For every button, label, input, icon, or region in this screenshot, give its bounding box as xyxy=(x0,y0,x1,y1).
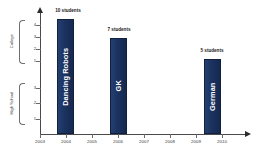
axis-group-brace-high-school xyxy=(19,83,25,125)
y-axis-line xyxy=(40,12,41,135)
y-tick-label-high-school-1: 1 xyxy=(27,117,36,121)
bar-chart: College 4 3 2 1 High School 3 2 1 10 stu… xyxy=(0,0,259,152)
x-tick-2006 xyxy=(118,134,119,138)
x-tick-2008 xyxy=(170,134,171,138)
axis-group-label-high-school: High School xyxy=(10,86,14,120)
bar-value-label-german: 5 students xyxy=(184,49,240,54)
y-tick-label-college-2: 2 xyxy=(27,47,36,51)
bar-label-german: German xyxy=(209,68,217,125)
x-tick-2007 xyxy=(144,134,145,138)
y-tick-label-college-1: 1 xyxy=(27,59,36,63)
x-tick-label-2004: 2004 xyxy=(54,140,78,145)
y-tick-label-college-4: 4 xyxy=(27,23,36,27)
x-tick-2004 xyxy=(66,134,67,138)
x-tick-label-2003: 2003 xyxy=(28,140,52,145)
bar-value-label-dancing-robots: 10 students xyxy=(40,9,96,14)
y-tick-high-school-2 xyxy=(36,103,41,104)
y-tick-high-school-3 xyxy=(36,88,41,89)
x-tick-label-2007: 2007 xyxy=(132,140,156,145)
x-tick-label-2010: 2010 xyxy=(210,140,234,145)
y-tick-label-college-3: 3 xyxy=(27,35,36,39)
y-tick-label-high-school-3: 3 xyxy=(27,86,36,90)
x-axis-line xyxy=(40,134,246,135)
x-tick-2010 xyxy=(222,134,223,138)
x-tick-label-2008: 2008 xyxy=(158,140,182,145)
bar-label-dancing-robots: Dancing Robots xyxy=(62,29,70,124)
x-tick-label-2009: 2009 xyxy=(184,140,208,145)
y-tick-high-school-1 xyxy=(36,119,41,120)
bar-value-label-gk: 7 students xyxy=(91,28,147,33)
y-tick-college-2 xyxy=(36,49,41,50)
axis-group-label-college: College xyxy=(10,26,14,56)
bar-label-gk: GK xyxy=(115,62,123,110)
x-tick-2009 xyxy=(196,134,197,138)
x-tick-2005 xyxy=(92,134,93,138)
y-tick-college-4 xyxy=(36,25,41,26)
axis-group-brace-college xyxy=(19,20,25,64)
x-tick-label-2005: 2005 xyxy=(80,140,104,145)
x-axis-arrow-icon xyxy=(245,131,251,137)
y-tick-college-3 xyxy=(36,37,41,38)
y-tick-label-high-school-2: 2 xyxy=(27,101,36,105)
y-tick-college-1 xyxy=(36,61,41,62)
x-tick-2003 xyxy=(40,134,41,138)
x-tick-label-2006: 2006 xyxy=(106,140,130,145)
